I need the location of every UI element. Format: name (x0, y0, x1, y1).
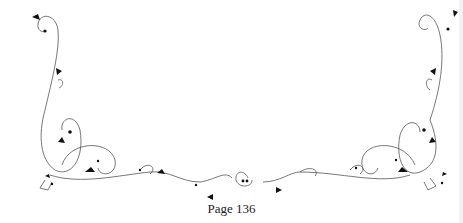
floral-scroll-border-icon (0, 0, 463, 223)
page-number: Page 136 (0, 201, 463, 217)
document-page: Page 136 (0, 0, 463, 223)
